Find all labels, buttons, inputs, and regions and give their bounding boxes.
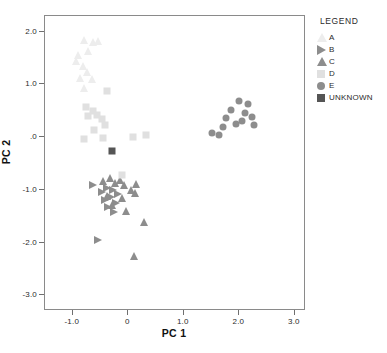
- data-point-b: [89, 181, 97, 189]
- y-tick-mark: [39, 136, 44, 137]
- data-point-d: [129, 134, 136, 141]
- y-tick-label: -2.0: [22, 237, 37, 246]
- y-tick-mark: [39, 31, 44, 32]
- data-point-a: [88, 75, 96, 83]
- legend-item-label: C: [329, 57, 335, 66]
- legend-item-c: C: [317, 56, 387, 67]
- data-point-e: [250, 121, 257, 128]
- legend-item-d: D: [317, 68, 387, 79]
- data-point-e: [227, 106, 234, 113]
- data-point-b: [110, 208, 118, 216]
- data-point-e: [208, 130, 215, 137]
- x-tick-mark: [238, 310, 239, 315]
- legend-marker-icon: [317, 80, 329, 91]
- legend-items: ABCDEUNKNOWN: [317, 32, 387, 103]
- legend-marker-icon: [317, 68, 329, 79]
- y-tick-label: -3.0: [22, 290, 37, 299]
- data-point-c: [130, 252, 138, 260]
- data-point-c: [122, 207, 130, 215]
- legend-item-label: B: [329, 45, 335, 54]
- data-point-d: [99, 135, 106, 142]
- x-tick-mark: [72, 310, 73, 315]
- x-axis-title: PC 1: [162, 327, 187, 339]
- legend-item-b: B: [317, 44, 387, 55]
- y-tick-label: -1.0: [22, 184, 37, 193]
- scatter-plot-figure: 2.01.0.0-1.0-2.0-3.0 -1.001.02.03.0 PC 2…: [0, 0, 387, 353]
- legend-marker-icon: [317, 92, 329, 103]
- data-point-c: [108, 201, 116, 209]
- data-point-e: [219, 123, 226, 130]
- x-tick-mark: [294, 310, 295, 315]
- data-point-c: [103, 192, 111, 200]
- x-tick-label: -1.0: [64, 317, 79, 326]
- data-point-c: [140, 218, 148, 226]
- plot-area: 2.01.0.0-1.0-2.0-3.0 -1.001.02.03.0: [44, 15, 305, 310]
- legend-marker-icon: [317, 44, 329, 55]
- legend-item-label: A: [329, 33, 335, 42]
- legend-marker-icon: [317, 32, 329, 43]
- data-point-unknown: [108, 147, 115, 154]
- data-point-a: [76, 74, 84, 82]
- x-tick-mark: [183, 310, 184, 315]
- data-point-d: [80, 136, 87, 143]
- data-point-e: [223, 115, 230, 122]
- legend: LEGEND ABCDEUNKNOWN: [317, 16, 387, 104]
- data-point-a: [80, 36, 88, 44]
- data-point-e: [216, 132, 223, 139]
- x-tick-mark: [127, 310, 128, 315]
- data-point-d: [143, 132, 150, 139]
- data-point-c: [132, 180, 140, 188]
- legend-marker-icon: [317, 56, 329, 67]
- data-point-e: [245, 100, 252, 107]
- legend-item-e: E: [317, 80, 387, 91]
- data-point-d: [90, 126, 97, 133]
- data-point-d: [85, 113, 92, 120]
- data-point-a: [94, 37, 102, 45]
- data-point-e: [236, 98, 243, 105]
- x-tick-label: 0: [125, 317, 130, 326]
- y-axis-title: PC 2: [0, 140, 12, 165]
- legend-item-unknown: UNKNOWN: [317, 92, 387, 103]
- y-tick-label: 2.0: [25, 26, 37, 35]
- y-tick-mark: [39, 294, 44, 295]
- data-point-a: [84, 47, 92, 55]
- x-tick-label: 2.0: [232, 317, 244, 326]
- legend-title: LEGEND: [320, 16, 387, 26]
- data-point-c: [118, 194, 126, 202]
- data-point-d: [118, 172, 125, 179]
- data-point-d: [102, 121, 109, 128]
- data-point-e: [248, 114, 255, 121]
- x-tick-label: 1.0: [177, 317, 189, 326]
- data-point-c: [131, 189, 139, 197]
- data-point-d: [104, 87, 111, 94]
- legend-item-label: E: [329, 81, 335, 90]
- data-point-a: [80, 84, 88, 92]
- legend-item-a: A: [317, 32, 387, 43]
- data-point-b: [94, 236, 102, 244]
- legend-item-label: UNKNOWN: [329, 93, 373, 102]
- x-tick-label: 3.0: [288, 317, 300, 326]
- y-tick-label: .0: [30, 132, 37, 141]
- y-tick-mark: [39, 189, 44, 190]
- y-tick-mark: [39, 242, 44, 243]
- y-tick-label: 1.0: [25, 79, 37, 88]
- data-point-a: [72, 57, 80, 65]
- legend-item-label: D: [329, 69, 335, 78]
- y-tick-mark: [39, 83, 44, 84]
- data-point-e: [238, 118, 245, 125]
